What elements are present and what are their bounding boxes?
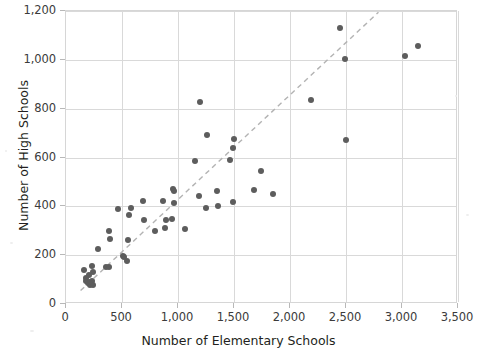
y-tick-mark (60, 254, 65, 255)
data-point (107, 236, 113, 242)
data-point (152, 228, 158, 234)
data-point (106, 264, 112, 270)
data-point (215, 203, 221, 209)
data-point (125, 237, 131, 243)
data-point (169, 216, 175, 222)
data-point (415, 43, 421, 49)
data-point (106, 228, 112, 234)
x-tick-mark (233, 303, 234, 308)
gridline-vertical (346, 11, 347, 302)
data-point (230, 199, 236, 205)
data-point (171, 188, 177, 194)
data-point (140, 198, 146, 204)
data-point (126, 212, 132, 218)
data-point (258, 168, 264, 174)
data-point (230, 145, 236, 151)
gridline-vertical (178, 11, 179, 302)
scan-speckle (30, 330, 34, 332)
data-point (308, 97, 314, 103)
x-tick-label: 2,000 (273, 310, 305, 324)
data-point (196, 193, 202, 199)
y-axis-title: Number of High Schools (16, 56, 31, 256)
x-tick-label: 2,500 (329, 310, 361, 324)
data-point (128, 205, 134, 211)
y-tick-label: 0 (0, 296, 56, 310)
data-point (192, 158, 198, 164)
data-point (204, 132, 210, 138)
data-point (182, 226, 188, 232)
data-point (89, 263, 95, 269)
data-point (162, 225, 168, 231)
data-point (203, 205, 209, 211)
gridline-horizontal (66, 158, 456, 159)
data-point (90, 269, 96, 275)
x-tick-mark (457, 303, 458, 308)
plot-area (65, 10, 457, 303)
y-tick-mark (60, 59, 65, 60)
y-tick-mark (60, 205, 65, 206)
data-point (115, 206, 121, 212)
x-tick-mark (289, 303, 290, 308)
x-tick-mark (401, 303, 402, 308)
y-tick-label: 1,200 (0, 3, 56, 17)
scan-speckle (455, 95, 457, 97)
scan-speckle (10, 242, 13, 244)
x-tick-mark (121, 303, 122, 308)
gridline-vertical (290, 11, 291, 302)
data-point (81, 267, 87, 273)
trend-line-path (81, 12, 379, 290)
data-point (124, 258, 130, 264)
x-axis-title: Number of Elementary Schools (0, 333, 477, 348)
data-point (337, 25, 343, 31)
gridline-vertical (458, 11, 459, 302)
scan-speckle (466, 214, 469, 216)
data-point (171, 200, 177, 206)
data-point (141, 217, 147, 223)
data-point (197, 99, 203, 105)
data-point (343, 137, 349, 143)
y-tick-mark (60, 157, 65, 158)
data-point (214, 188, 220, 194)
x-tick-mark (65, 303, 66, 308)
gridline-horizontal (66, 109, 456, 110)
x-tick-label: 500 (110, 310, 132, 324)
x-tick-mark (177, 303, 178, 308)
scatter-chart-figure: 05001,0001,5002,0002,5003,0003,500 02004… (0, 0, 477, 356)
data-point (227, 157, 233, 163)
gridline-vertical (234, 11, 235, 302)
y-tick-mark (60, 10, 65, 11)
data-point (251, 187, 257, 193)
data-point (270, 191, 276, 197)
chart-title (120, 0, 400, 2)
scan-speckle (5, 150, 7, 152)
x-tick-label: 3,000 (385, 310, 417, 324)
data-point (160, 198, 166, 204)
data-point (231, 136, 237, 142)
data-point (90, 282, 96, 288)
x-tick-label: 1,500 (217, 310, 249, 324)
x-tick-mark (345, 303, 346, 308)
gridline-horizontal (66, 206, 456, 207)
gridline-horizontal (66, 60, 456, 61)
data-point (342, 56, 348, 62)
y-tick-mark (60, 108, 65, 109)
gridline-horizontal (66, 11, 456, 12)
data-point (95, 246, 101, 252)
x-tick-label: 3,500 (441, 310, 473, 324)
x-tick-label: 0 (61, 310, 68, 324)
data-point (402, 53, 408, 59)
x-tick-label: 1,000 (161, 310, 193, 324)
y-tick-mark (60, 303, 65, 304)
